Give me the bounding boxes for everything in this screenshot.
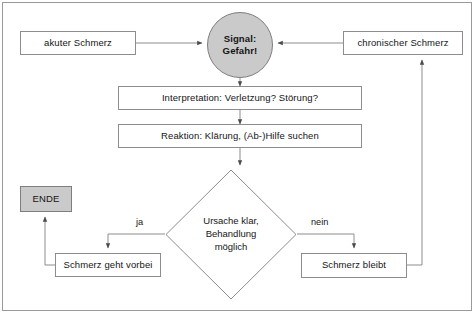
node-ende[interactable]: ENDE: [20, 186, 72, 212]
node-interpretation[interactable]: Interpretation: Verletzung? Störung?: [118, 86, 362, 110]
node-schmerz-bleibt-label: Schmerz bleibt: [322, 259, 386, 272]
edge-schmerz-bleibt-to-chronisch: [407, 60, 422, 265]
node-reaktion[interactable]: Reaktion: Klärung, (Ab-)Hilfe suchen: [118, 124, 362, 148]
node-interpretation-label: Interpretation: Verletzung? Störung?: [162, 92, 318, 105]
node-entscheidung-label: Ursache klar, Behandlung möglich: [165, 169, 297, 300]
flowchart-canvas: akuter Schmerz chronischer Schmerz Signa…: [0, 0, 476, 315]
node-ende-label: ENDE: [33, 193, 60, 206]
node-signal-gefahr[interactable]: Signal: Gefahr!: [207, 12, 273, 78]
node-akuter-schmerz[interactable]: akuter Schmerz: [20, 31, 136, 55]
edge-label-nein: nein: [311, 217, 328, 227]
node-schmerz-geht-vorbei[interactable]: Schmerz geht vorbei: [55, 253, 161, 277]
edge-label-ja: ja: [136, 217, 143, 227]
node-reaktion-label: Reaktion: Klärung, (Ab-)Hilfe suchen: [161, 130, 319, 143]
node-signal-label-line1: Signal:: [223, 33, 258, 45]
node-entscheidung-label-line2: Behandlung: [203, 228, 258, 241]
edge-ja-to-schmerz-geht-vorbei: [108, 234, 165, 248]
node-schmerz-bleibt[interactable]: Schmerz bleibt: [301, 253, 407, 278]
node-akuter-schmerz-label: akuter Schmerz: [44, 37, 112, 50]
node-schmerz-geht-vorbei-label: Schmerz geht vorbei: [63, 259, 152, 272]
edge-schmerz-geht-vorbei-to-ende: [45, 217, 55, 265]
node-chronischer-schmerz[interactable]: chronischer Schmerz: [343, 31, 463, 55]
node-chronischer-schmerz-label: chronischer Schmerz: [357, 37, 448, 50]
node-entscheidung[interactable]: Ursache klar, Behandlung möglich: [165, 169, 297, 300]
node-entscheidung-label-line1: Ursache klar,: [203, 215, 258, 228]
node-signal-label-line2: Gefahr!: [223, 45, 258, 57]
node-entscheidung-label-line3: möglich: [203, 241, 258, 254]
edge-nein-to-schmerz-bleibt: [297, 234, 354, 248]
